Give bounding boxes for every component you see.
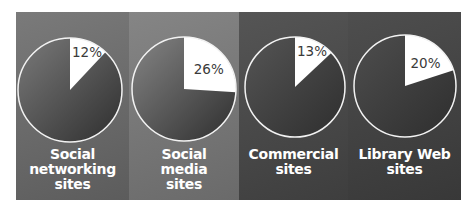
pie-panel: 26%Social media sites: [129, 12, 239, 200]
pie-panel: 12%Social networking sites: [16, 12, 129, 200]
percentage-label: 13%: [297, 43, 327, 59]
category-label: Library Web sites: [348, 147, 461, 177]
percentage-label: 20%: [410, 55, 440, 71]
pie-panel: 20%Library Web sites: [348, 12, 461, 200]
pie-panel: 13%Commercial sites: [239, 12, 348, 200]
category-label: Commercial sites: [239, 147, 348, 177]
pie-chart-group: 12%Social networking sites26%Social medi…: [16, 12, 461, 200]
category-label: Social media sites: [129, 147, 239, 192]
percentage-label: 12%: [72, 44, 102, 60]
percentage-label: 26%: [194, 61, 224, 77]
category-label: Social networking sites: [16, 147, 129, 192]
